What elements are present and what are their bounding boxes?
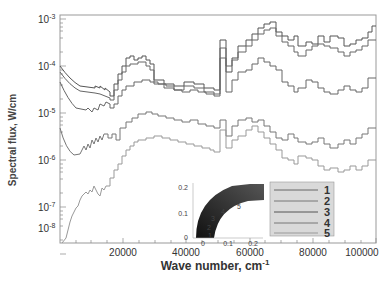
legend: 1 2 3 4 5 [270, 182, 334, 239]
y-tick-label: 10-4 [38, 60, 55, 72]
inset-plot: 0.2 0.1 0 0 0.1 0.2 1 2 3 4 5 [178, 180, 264, 247]
y-tick-labels: 10-3 10-4 10-5 10-6 10-7 10-8 [38, 13, 55, 234]
series-3-line [60, 58, 376, 112]
series-4-line [60, 112, 376, 155]
inset-point-label: 2 [207, 224, 211, 231]
x-tick-label: 100000 [345, 247, 379, 258]
x-tick-labels: 20000 40000 60000 80000 100000 [109, 247, 379, 258]
y-axis-label: Spectral flux, W/cm [7, 94, 18, 186]
x-tick-label: 20000 [109, 247, 137, 258]
inset-y-tick: 0.2 [178, 184, 188, 191]
x-axis-label: Wave number, cm-1 [161, 258, 270, 273]
legend-entry-5: 5 [324, 227, 330, 239]
spectral-flux-chart: 10-3 10-4 10-5 10-6 10-7 10-8 20000 4000… [0, 0, 380, 286]
inset-y-tick: 0.1 [178, 210, 188, 217]
inset-x-tick: 0.2 [248, 240, 258, 247]
inset-point-label: 5 [237, 203, 241, 210]
inset-point-label: 4 [221, 208, 225, 215]
x-tick-label: 40000 [172, 247, 200, 258]
y-tick-label: 10-3 [38, 13, 55, 25]
inset-y-tick: 0 [184, 234, 188, 241]
series-2-line [60, 28, 376, 100]
y-tick-label: 10-8 [38, 222, 55, 234]
inset-point-label: 1 [208, 232, 212, 239]
inset-point-label: 3 [211, 215, 215, 222]
inset-x-tick: 0.1 [223, 240, 233, 247]
inset-x-tick: 0 [201, 240, 205, 247]
x-tick-label: 80000 [299, 247, 327, 258]
y-tick-label: 10-7 [38, 201, 55, 213]
y-tick-label: 10-6 [38, 154, 55, 166]
y-tick-label: 10-5 [38, 107, 55, 119]
x-tick-label: 60000 [236, 247, 264, 258]
series-1-line [60, 22, 376, 96]
